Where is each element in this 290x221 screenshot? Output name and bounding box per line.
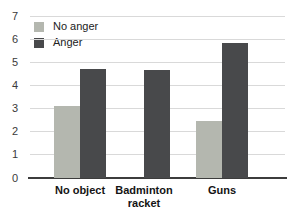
bar-anger [80, 69, 106, 178]
category-label: Guns [185, 184, 259, 197]
bar-no-anger [196, 121, 222, 178]
gridline [30, 16, 285, 17]
anger-bar-chart: No angerAnger 01234567No objectBadminton… [0, 0, 290, 221]
y-axis-tick-label: 7 [0, 10, 18, 23]
y-axis-tick-label: 4 [0, 79, 18, 92]
legend-item: No anger [34, 21, 98, 32]
y-axis-tick-label: 3 [0, 102, 18, 115]
bar-anger [144, 70, 170, 178]
y-axis-tick-label: 6 [0, 33, 18, 46]
category-label: Badminton racket [107, 184, 181, 210]
y-axis-tick-label: 1 [0, 148, 18, 161]
y-axis-tick-label: 2 [0, 125, 18, 138]
legend-swatch-no-anger [34, 22, 44, 32]
legend-label: No anger [53, 21, 98, 32]
bar-anger [222, 43, 248, 178]
y-axis-tick-label: 5 [0, 56, 18, 69]
bar-no-anger [54, 106, 80, 178]
gridline [30, 39, 285, 40]
y-axis-tick-label: 0 [0, 172, 18, 185]
category-label: No object [43, 184, 117, 197]
chart-legend: No angerAnger [34, 21, 98, 48]
